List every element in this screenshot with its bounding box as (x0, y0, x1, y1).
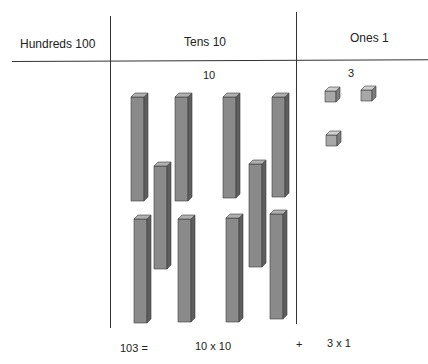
ten-rod-1-side (144, 93, 148, 201)
ten-rod-7-side (147, 215, 151, 323)
ten-rod-5-front (154, 166, 167, 269)
unit-cube-2-front (361, 90, 372, 101)
unit-cube-3 (326, 131, 341, 146)
ten-rod-10-side (283, 210, 287, 319)
ten-rod-9-front (226, 218, 239, 322)
unit-cube-1 (325, 87, 340, 102)
ten-rod-3-front (223, 97, 236, 198)
ten-rod-7 (134, 215, 151, 323)
ten-rod-9 (226, 214, 243, 322)
equation-tens-term: 10 x 10 (195, 340, 231, 352)
unit-cube-2 (361, 86, 376, 101)
ten-rod-7-front (134, 219, 147, 323)
ten-rod-8-front (178, 219, 191, 322)
ten-rod-1 (131, 93, 148, 201)
ten-rod-2-front (175, 97, 188, 201)
ten-rod-4-front (272, 97, 285, 197)
ten-rod-10-front (270, 214, 283, 319)
ten-rod-4-side (285, 93, 289, 197)
ten-rod-6-front (249, 164, 262, 267)
ten-rod-8 (178, 215, 195, 322)
ten-rod-6-side (262, 160, 266, 267)
ten-rod-3-side (236, 93, 240, 198)
ten-rod-8-side (191, 215, 195, 322)
ten-rod-2-side (188, 93, 192, 201)
ten-rod-9-side (239, 214, 243, 322)
ten-rod-5-side (167, 162, 171, 269)
ten-rod-3 (223, 93, 240, 198)
ten-rod-10 (270, 210, 287, 319)
unit-cube-1-front (325, 91, 336, 102)
ten-rod-1-front (131, 97, 144, 201)
equation-total: 103 = (120, 342, 148, 354)
equation-ones-term: 3 x 1 (327, 337, 351, 349)
ten-rod-6 (249, 160, 266, 267)
ten-rod-2 (175, 93, 192, 201)
equation-plus: + (296, 338, 302, 350)
ten-rod-5 (154, 162, 171, 269)
unit-cube-3-front (326, 135, 337, 146)
base-ten-blocks (0, 0, 428, 364)
ten-rod-4 (272, 93, 289, 197)
